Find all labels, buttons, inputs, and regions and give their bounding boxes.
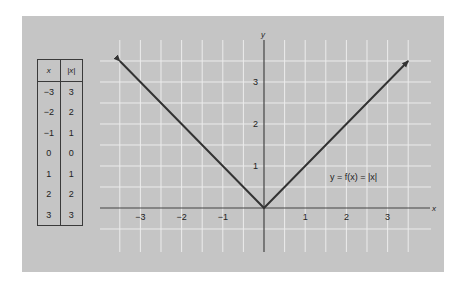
- x-tick-label: −2: [176, 212, 186, 222]
- x-tick-label: 2: [344, 212, 349, 222]
- x-tick-label: 1: [303, 212, 308, 222]
- x-tick-labels: −3−2−1123: [135, 212, 390, 222]
- x-axis-label: x: [431, 204, 437, 213]
- y-tick-label: 2: [253, 119, 258, 129]
- x-tick-label: −1: [218, 212, 228, 222]
- y-tick-label: 3: [253, 77, 258, 87]
- y-tick-label: 1: [253, 161, 258, 171]
- grid-lines: [100, 40, 431, 252]
- y-axis-label: y: [260, 30, 266, 39]
- plot-area: x y −3−2−1123 123 y = f(x) = |x|: [0, 0, 464, 287]
- function-label: y = f(x) = |x|: [330, 172, 377, 182]
- x-tick-label: −3: [135, 212, 145, 222]
- y-tick-labels: 123: [253, 77, 258, 171]
- x-tick-label: 3: [385, 212, 390, 222]
